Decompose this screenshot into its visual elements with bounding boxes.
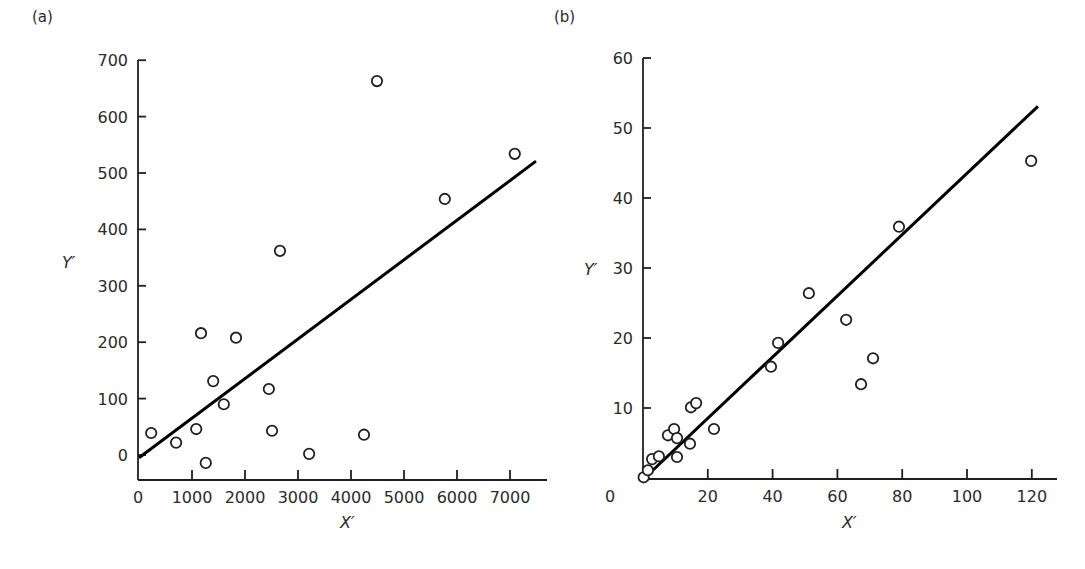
- data-point-circle: [440, 194, 450, 204]
- fit-line: [645, 106, 1038, 478]
- y-tick-label: 200: [97, 333, 128, 352]
- data-point-circle: [510, 149, 520, 159]
- panel-a-scatter-plot: (a) 0100200300400500600700 0100020003000…: [32, 8, 547, 532]
- data-point-circle: [196, 328, 206, 338]
- fit-line: [139, 161, 536, 458]
- panel-b-data-points: [638, 156, 1036, 483]
- y-tick-label: 40: [613, 189, 633, 208]
- x-tick-label: 0: [605, 487, 615, 506]
- data-point-circle: [231, 332, 241, 342]
- data-point-circle: [264, 384, 274, 394]
- data-point-circle: [372, 76, 382, 86]
- data-point-circle: [856, 379, 866, 389]
- panel-a-axes: [138, 60, 547, 480]
- panel-a-label: (a): [32, 8, 53, 26]
- x-tick-label: 3000: [278, 488, 319, 507]
- x-tick-label: 1000: [172, 488, 213, 507]
- data-point-circle: [709, 424, 719, 434]
- x-tick-label: 80: [892, 487, 912, 506]
- y-tick-label: 500: [97, 164, 128, 183]
- data-point-circle: [894, 222, 904, 232]
- y-tick-label: 300: [97, 277, 128, 296]
- panel-b-label: (b): [554, 8, 575, 26]
- panel-a-regression-line: [139, 161, 536, 458]
- x-tick-label: 0: [133, 488, 143, 507]
- data-point-circle: [773, 338, 783, 348]
- data-point-circle: [171, 437, 181, 447]
- panel-a-x-axis-title: X′: [339, 513, 355, 532]
- data-point-circle: [691, 398, 701, 408]
- y-tick-label: 10: [613, 399, 633, 418]
- y-tick-label: 700: [97, 51, 128, 70]
- x-tick-label: 20: [698, 487, 718, 506]
- data-point-circle: [208, 376, 218, 386]
- data-point-circle: [304, 449, 314, 459]
- y-tick-label: 100: [97, 390, 128, 409]
- data-point-circle: [191, 424, 201, 434]
- data-point-circle: [766, 362, 776, 372]
- data-point-circle: [654, 451, 664, 461]
- data-point-circle: [672, 433, 682, 443]
- y-tick-label: 20: [613, 329, 633, 348]
- data-point-circle: [868, 353, 878, 363]
- data-point-circle: [146, 428, 156, 438]
- x-tick-label: 100: [952, 487, 983, 506]
- panel-a-y-axis-title: Y′: [62, 253, 76, 272]
- x-tick-label: 4000: [331, 488, 372, 507]
- x-tick-label: 6000: [437, 488, 478, 507]
- x-tick-label: 7000: [490, 488, 531, 507]
- panel-b-scatter-plot: (b) 102030405060 020406080100120 Y′ X′: [554, 8, 1057, 532]
- data-point-circle: [359, 429, 369, 439]
- panel-b-axes: [643, 58, 1057, 479]
- data-point-circle: [267, 426, 277, 436]
- panel-b-y-axis-title: Y′: [584, 260, 598, 279]
- y-tick-label: 0: [118, 446, 128, 465]
- y-tick-label: 400: [97, 220, 128, 239]
- y-tick-label: 600: [97, 108, 128, 127]
- data-point-circle: [201, 458, 211, 468]
- data-point-circle: [685, 439, 695, 449]
- data-point-circle: [275, 246, 285, 256]
- data-point-circle: [804, 288, 814, 298]
- y-tick-label: 30: [613, 259, 633, 278]
- panel-b-regression-line: [645, 106, 1038, 478]
- y-tick-label: 60: [613, 49, 633, 68]
- data-point-circle: [219, 399, 229, 409]
- y-tick-label: 50: [613, 119, 633, 138]
- data-point-circle: [643, 465, 653, 475]
- x-tick-label: 5000: [384, 488, 425, 507]
- data-point-circle: [1026, 156, 1036, 166]
- panel-b-x-axis-title: X′: [841, 513, 857, 532]
- data-point-circle: [841, 315, 851, 325]
- x-tick-label: 120: [1017, 487, 1048, 506]
- figure: (a) 0100200300400500600700 0100020003000…: [0, 0, 1085, 569]
- data-point-circle: [672, 452, 682, 462]
- x-tick-label: 2000: [225, 488, 266, 507]
- panel-b-x-ticks: 020406080100120: [605, 469, 1047, 506]
- x-tick-label: 60: [827, 487, 847, 506]
- panel-a-x-ticks: 01000200030004000500060007000: [133, 470, 530, 507]
- panel-b-y-ticks: 102030405060: [613, 49, 651, 418]
- x-tick-label: 40: [762, 487, 782, 506]
